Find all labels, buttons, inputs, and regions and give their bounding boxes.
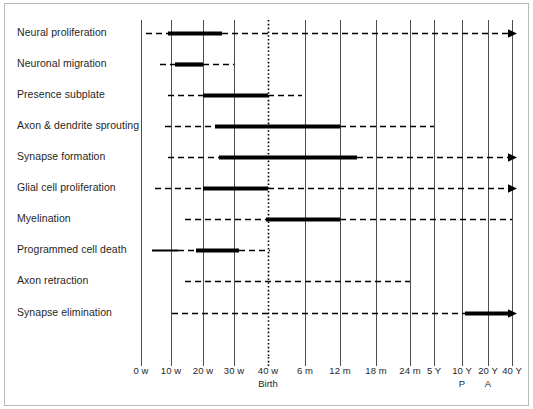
row-label: Neural proliferation <box>17 27 107 38</box>
axis-tick-label: 12 m <box>329 366 350 376</box>
developmental-timeline-figure: Neural proliferationNeuronal migrationPr… <box>0 0 533 409</box>
timeline-row <box>172 309 517 317</box>
row-label: Glial cell proliferation <box>17 182 116 193</box>
axis-tick-label: 24 m <box>399 366 420 376</box>
row-label: Programmed cell death <box>17 244 127 255</box>
row-label: Myelination <box>17 213 71 224</box>
row-label: Presence subplate <box>17 89 105 100</box>
axis-tick-label: 10 Y <box>452 366 472 376</box>
axis-tick-label: 40 Y <box>502 366 522 376</box>
axis-tick-sublabel: A <box>485 379 491 389</box>
timeline-row <box>146 29 517 37</box>
row-label: Synapse formation <box>17 151 105 162</box>
axis-tick-label: 6 m <box>297 366 313 376</box>
row-label: Neuronal migration <box>17 58 107 69</box>
axis-tick-label: 40 w <box>258 366 278 376</box>
axis-tick-label: 18 m <box>365 366 386 376</box>
axis-tick-label: 30 w <box>224 366 244 376</box>
row-label: Synapse elimination <box>17 307 112 318</box>
timeline-row <box>168 153 517 161</box>
row-label: Axon retraction <box>17 275 88 286</box>
axis-tick-label: 0 w <box>134 366 149 376</box>
axis-tick-sublabel: P <box>459 379 465 389</box>
row-label: Axon & dendrite sprouting <box>17 120 139 131</box>
process-bars-group <box>146 29 517 317</box>
axis-tick-label: 20 Y <box>478 366 498 376</box>
axis-tick-label: 20 w <box>193 366 213 376</box>
axis-tick-label: 10 w <box>161 366 181 376</box>
axis-tick-label: 5 Y <box>427 366 441 376</box>
axis-tick-sublabel: Birth <box>258 379 278 389</box>
